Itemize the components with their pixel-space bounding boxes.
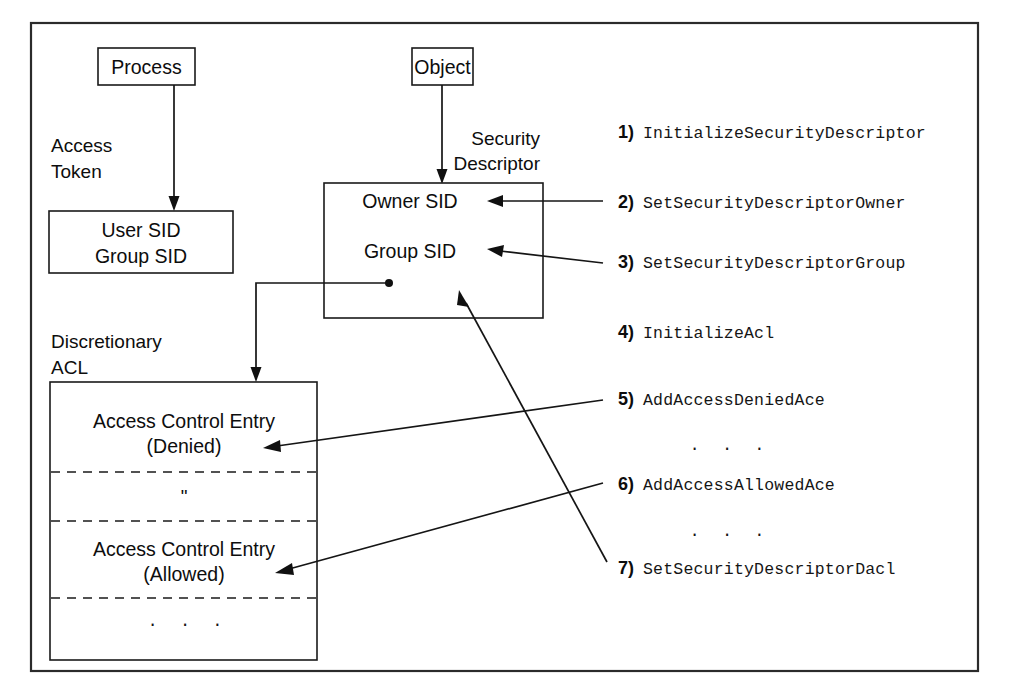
api-step-7-name: SetSecurityDescriptorDacl <box>643 560 896 579</box>
access-token-label-line2: Token <box>51 161 102 182</box>
api-step-1-number: 1) <box>618 122 634 142</box>
api-step-3-name: SetSecurityDescriptorGroup <box>643 254 906 273</box>
ace-denied-line1: Access Control Entry <box>93 410 275 432</box>
api-step-2-number: 2) <box>618 192 634 212</box>
api-step-5-number: 5) <box>618 389 634 409</box>
access-token-user-sid: User SID <box>101 219 180 241</box>
api-step-4-number: 4) <box>618 322 634 342</box>
api-list-ellipsis-2: . . . <box>689 522 770 541</box>
api-step-3-number: 3) <box>618 252 634 272</box>
api-step-4-name: InitializeAcl <box>643 324 774 343</box>
security-descriptor-label-line1: Security <box>471 128 540 149</box>
ace-ditto-mark: " <box>181 486 188 507</box>
api-list-ellipsis-1: . . . <box>689 436 770 455</box>
sd-owner-sid: Owner SID <box>362 190 457 212</box>
security-descriptor-diagram: Process Access Token User SID Group SID … <box>0 0 1010 689</box>
api-step-6-number: 6) <box>618 474 634 494</box>
security-descriptor-label-line2: Descriptor <box>453 153 540 174</box>
ace-allowed-line1: Access Control Entry <box>93 538 275 560</box>
api-step-6-name: AddAccessAllowedAce <box>643 476 835 495</box>
api-step-5-name: AddAccessDeniedAce <box>643 391 825 410</box>
access-token-label-line1: Access <box>51 135 112 156</box>
object-box-label: Object <box>414 56 471 78</box>
api-step-2-name: SetSecurityDescriptorOwner <box>643 194 906 213</box>
dacl-label-line1: Discretionary <box>51 331 162 352</box>
dacl-ellipsis: . . . <box>147 612 228 631</box>
access-token-group-sid: Group SID <box>95 245 187 267</box>
api-step-1-name: InitializeSecurityDescriptor <box>643 124 926 143</box>
dacl-label-line2: ACL <box>51 357 88 378</box>
api-step-7-number: 7) <box>618 558 634 578</box>
process-box-label: Process <box>111 56 182 78</box>
sd-group-sid: Group SID <box>364 240 456 262</box>
ace-denied-line2: (Denied) <box>147 435 222 457</box>
ace-allowed-line2: (Allowed) <box>143 563 224 585</box>
